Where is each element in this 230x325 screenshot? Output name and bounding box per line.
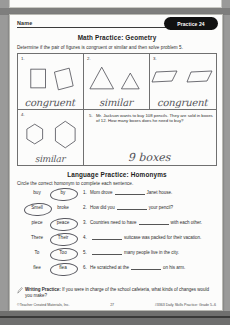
figure-pair-hexagons xyxy=(18,119,83,151)
sentence-before: Countries need to have xyxy=(90,220,137,225)
homonym-option-a[interactable]: There xyxy=(27,235,47,240)
sentence-after: Janet house. xyxy=(147,190,173,195)
word-problem-number: 5. xyxy=(89,113,93,119)
footer-page-number: 27 xyxy=(110,303,114,307)
problem-cell-4[interactable]: 4. similar xyxy=(18,110,84,166)
previous-sheet-edge xyxy=(9,0,222,8)
sentence-after: many people live in the city. xyxy=(124,250,179,255)
answer-blank[interactable] xyxy=(117,206,147,210)
worksheet-sheet: Name Practice 24 Math Practice: Geometry… xyxy=(9,14,223,311)
figure-pair-triangles xyxy=(84,63,149,95)
homonym-row[interactable]: flee flea 6.He scratched at theon his ar… xyxy=(17,263,217,278)
homonym-option-b[interactable]: Their xyxy=(53,235,73,240)
handwritten-answer-3: congruent xyxy=(150,97,216,108)
answer-blank[interactable] xyxy=(139,221,169,225)
hexagon-pair-svg xyxy=(18,119,83,155)
homonym-sentence: 2.How did youyour pencil? xyxy=(83,205,217,210)
sentence-number: 2. xyxy=(83,205,90,210)
page-bottom-band xyxy=(0,311,230,325)
word-problem-text: Mr. Jackson wants to buy 108 pencils. Th… xyxy=(96,113,213,125)
problem-number: 4. xyxy=(21,112,25,117)
answer-blank[interactable] xyxy=(92,236,122,240)
answer-blank[interactable] xyxy=(92,251,122,255)
handwritten-answer-2: similar xyxy=(84,97,149,108)
problem-cell-1[interactable]: 1. congruent xyxy=(18,54,84,110)
footer-copyright: ©Teacher Created Materials, Inc. xyxy=(17,303,70,307)
homonym-option-b[interactable]: by xyxy=(53,190,73,195)
name-write-line[interactable] xyxy=(17,27,175,28)
answer-blank[interactable] xyxy=(131,266,161,270)
sentence-number: 4. xyxy=(83,235,90,240)
sentence-after: your pencil? xyxy=(149,205,173,210)
homonym-row[interactable]: To Too 5.many people live in the city. xyxy=(17,248,217,263)
sentence-after: with each other. xyxy=(171,220,203,225)
language-instruction: Circle the correct homonym to complete e… xyxy=(17,181,217,186)
homonym-sentence: 4.suitcase was packed for their vacation… xyxy=(83,235,217,240)
homonym-row[interactable]: There Their 4.suitcase was packed for th… xyxy=(17,233,217,248)
homonym-sentence: 5.many people live in the city. xyxy=(83,250,217,255)
handwritten-answer-4: similar xyxy=(18,154,83,164)
homonym-row[interactable]: piece peace 3.Countries need to havewith… xyxy=(17,218,217,233)
problem-cell-2[interactable]: 2. similar xyxy=(84,54,150,110)
sentence-number: 3. xyxy=(83,220,90,225)
homonym-list: buy by 1.Mom droveJanet house. Smell bro… xyxy=(17,188,217,278)
homonym-sentence: 6.He scratched at theon his arm. xyxy=(83,265,217,270)
sentence-number: 5. xyxy=(83,250,90,255)
name-label: Name xyxy=(17,20,177,26)
writing-label: Writing Practice: xyxy=(25,287,61,292)
sentence-before: He scratched at the xyxy=(90,265,129,270)
homonym-option-b[interactable]: flea xyxy=(53,265,73,270)
name-field-row[interactable]: Name xyxy=(17,20,177,28)
homonym-sentence: 3.Countries need to havewith each other. xyxy=(83,220,217,225)
homonym-sentence: 1.Mom droveJanet house. xyxy=(83,190,217,195)
sentence-after: suitcase was packed for their vacation. xyxy=(124,235,201,240)
worksheet-page: Name Practice 24 Math Practice: Geometry… xyxy=(0,0,230,325)
sentence-before: Mom drove xyxy=(90,190,113,195)
page-footer: ©Teacher Created Materials, Inc. 27 #336… xyxy=(17,303,216,307)
homonym-option-b[interactable]: broke xyxy=(53,205,73,210)
geometry-problem-grid: 1. congruent 2. similar xyxy=(17,53,217,166)
homonym-option-a[interactable]: buy xyxy=(27,190,47,195)
writing-practice: Writing Practice: If you were in charge … xyxy=(17,287,216,300)
triangle-pair-svg xyxy=(84,63,149,95)
problem-number: 3. xyxy=(153,56,157,61)
practice-badge: Practice 24 xyxy=(164,17,218,30)
problem-cell-5[interactable]: 5. Mr. Jackson wants to buy 108 pencils.… xyxy=(84,110,216,166)
homonym-option-a[interactable]: Smell xyxy=(27,205,47,210)
homonym-option-a[interactable]: flee xyxy=(27,265,47,270)
sentence-before: How did you xyxy=(90,205,115,210)
problem-cell-3[interactable]: 3. congruent xyxy=(150,54,216,110)
homonym-row[interactable]: buy by 1.Mom droveJanet house. xyxy=(17,188,217,203)
answer-blank[interactable] xyxy=(115,191,145,195)
math-instruction: Determine if the pair of figures is cong… xyxy=(17,45,217,50)
footer-product-code: #3363 Daily Skills Practice: Grade 5–6 xyxy=(155,303,216,307)
homonym-option-b[interactable]: Too xyxy=(53,250,73,255)
pencil-icon xyxy=(17,287,23,294)
writing-text: Writing Practice: If you were in charge … xyxy=(25,287,216,300)
sentence-number: 1. xyxy=(83,190,90,195)
homonym-option-a[interactable]: To xyxy=(27,250,47,255)
handwritten-answer-1: congruent xyxy=(18,97,83,108)
figure-pair-quadrilaterals xyxy=(18,63,83,95)
problem-number: 2. xyxy=(87,56,91,61)
word-problem: 5. Mr. Jackson wants to buy 108 pencils.… xyxy=(89,113,213,125)
parallelogram-pair-svg xyxy=(150,63,216,95)
practice-badge-label: Practice 24 xyxy=(177,21,205,27)
handwritten-answer-5: 9 boxes xyxy=(84,151,216,164)
figure-pair-parallelograms xyxy=(150,63,216,95)
homonym-option-b[interactable]: peace xyxy=(53,220,73,225)
language-section-title: Language Practice: Homonyms xyxy=(10,171,223,178)
math-section-title: Math Practice: Geometry xyxy=(10,34,223,41)
problem-number: 1. xyxy=(21,56,25,61)
quadrilateral-pair-svg xyxy=(18,63,83,95)
homonym-row[interactable]: Smell broke 2.How did youyour pencil? xyxy=(17,203,217,218)
sentence-number: 6. xyxy=(83,265,90,270)
homonym-option-a[interactable]: piece xyxy=(27,220,47,225)
sentence-after: on his arm. xyxy=(163,265,185,270)
